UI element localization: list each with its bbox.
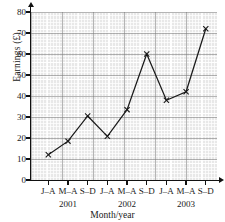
x-axis-tick-label: S–D	[189, 186, 223, 196]
data-point-marker	[105, 134, 110, 139]
y-axis-tick	[26, 116, 31, 117]
x-axis-tick	[107, 181, 108, 185]
x-axis-tick	[166, 181, 167, 185]
x-axis-tick	[126, 181, 127, 185]
y-axis-tick	[26, 137, 31, 138]
y-axis-tick	[26, 179, 31, 180]
x-axis-tick	[87, 181, 88, 185]
x-axis-arrow-icon	[219, 177, 224, 183]
data-series-line	[31, 12, 217, 180]
y-axis-tick	[26, 32, 31, 33]
plot-area	[31, 12, 217, 180]
earnings-line-chart: Earnings (£) 01020304050607080 J–AM–AS–D…	[0, 0, 225, 222]
y-axis-tick	[26, 158, 31, 159]
y-axis-tick-label: 0	[2, 176, 26, 185]
y-axis-tick-label: 40	[2, 92, 26, 101]
y-axis-tick-label: 50	[2, 71, 26, 80]
y-axis-tick-label: 20	[2, 134, 26, 143]
data-point-marker	[85, 113, 90, 118]
x-axis-year-label: 2003	[166, 199, 206, 209]
x-axis-tick	[48, 181, 49, 185]
y-axis-tick-label: 70	[2, 29, 26, 38]
series-polyline	[48, 29, 205, 155]
x-axis-tick	[205, 181, 206, 185]
data-point-marker	[65, 139, 70, 144]
x-axis-title: Month/year	[0, 210, 225, 220]
y-axis-tick	[26, 11, 31, 12]
data-point-marker	[164, 98, 169, 103]
x-axis-tick	[185, 181, 186, 185]
y-axis-tick	[26, 95, 31, 96]
data-point-marker	[46, 152, 51, 157]
y-axis-tick-label: 60	[2, 50, 26, 59]
y-axis-tick-label: 80	[2, 8, 26, 17]
x-axis-tick	[67, 181, 68, 185]
y-axis-arrow-icon	[28, 2, 34, 7]
y-axis-tick-label: 30	[2, 113, 26, 122]
y-axis-tick	[26, 74, 31, 75]
x-axis-year-label: 2001	[48, 199, 88, 209]
y-axis-tick	[26, 53, 31, 54]
y-axis-tick-label: 10	[2, 155, 26, 164]
x-axis-year-label: 2002	[107, 199, 147, 209]
x-axis-tick	[146, 181, 147, 185]
